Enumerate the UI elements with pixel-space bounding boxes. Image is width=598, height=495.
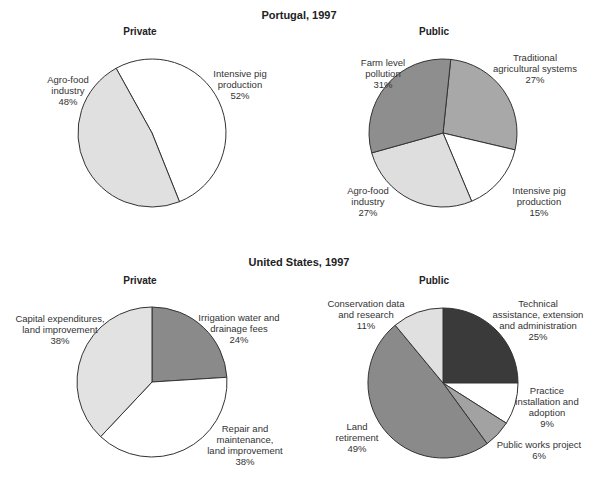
label-us-private-repair: Repair and maintenance, land improvement… [200,423,290,467]
label-us-public-land-retirement: Land retirement 49% [332,421,382,454]
label-us-public-practice: Practice installation and adoption 9% [512,385,582,429]
subtitle-portugal-public: Public [374,26,494,37]
label-us-public-public-works: Public works project 6% [494,439,584,461]
label-us-private-capital: Capital expenditures, land improvement 3… [10,313,110,346]
label-pt-public-traditional: Traditional agricultural systems 27% [480,52,590,85]
label-us-public-technical: Technical assistance, extension and admi… [488,298,588,342]
section-title-portugal: Portugal, 1997 [0,9,598,21]
subtitle-us-private: Private [80,275,200,286]
subtitle-portugal-private: Private [80,26,200,37]
label-pt-public-agro-food: Agro-food industry 27% [336,185,400,218]
label-us-private-irrigation: Irrigation water and drainage fees 24% [194,312,284,345]
label-us-public-conservation: Conservation data and research 11% [326,298,406,331]
label-pt-public-farm-level: Farm level pollution 31% [348,57,418,90]
label-pt-private-agro-food: Agro-food industry 48% [38,74,98,107]
section-title-us: United States, 1997 [0,256,598,268]
subtitle-us-public: Public [374,275,494,286]
label-pt-private-intensive-pig: Intensive pig production 52% [198,68,282,101]
label-pt-public-intensive-pig: Intensive pig production 15% [494,185,584,218]
